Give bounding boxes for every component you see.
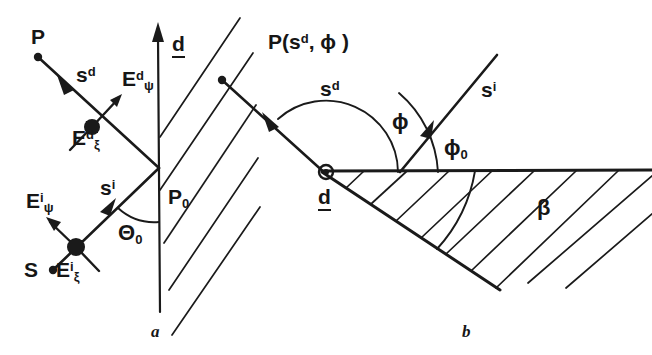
panel-a-label-angle-theta: Θ0 <box>118 222 142 244</box>
panel-a-point-p-dot <box>34 53 42 61</box>
panel-b-beta-arc <box>437 171 475 249</box>
panel-b-label-edge-vector: d <box>318 186 331 207</box>
panel-b-label-ray-incident: si <box>481 79 496 100</box>
panel-b-wedge-top-face <box>322 170 652 171</box>
panel-b-label-ray-diffracted: sd <box>320 78 340 99</box>
panel-a-geometry <box>34 18 260 335</box>
panel-a-label-source-point: S <box>24 259 38 280</box>
figure-canvas <box>0 0 652 355</box>
panel-b-phi-arc <box>278 101 398 172</box>
panel-b-geometry <box>218 55 652 290</box>
panel-a-label-ray-diffracted: sd <box>76 64 96 85</box>
panel-a-label-field-incident-xi: Eiξ <box>56 259 79 280</box>
panel-b-label-observation-point: P(sd, ϕ ) <box>268 31 349 52</box>
panel-a-label-ray-incident: si <box>100 177 115 198</box>
panel-b-label-angle-phi0: ϕ0 <box>444 137 468 159</box>
panel-a-label-field-incident-psi: Eiψ <box>26 190 53 211</box>
panel-a-caption: a <box>151 322 160 342</box>
panel-a-label-field-diffracted-xi: Edξ <box>72 127 100 148</box>
panel-b-hatching <box>346 171 652 288</box>
panel-a-label-diffraction-point: P0 <box>168 186 189 207</box>
panel-a-label-normal-axis: d <box>172 33 185 54</box>
panel-b-diffracted-ray <box>222 80 326 174</box>
panel-a-hatching <box>160 18 260 335</box>
panel-a-label-field-diffracted-psi: Edψ <box>122 68 154 89</box>
panel-b-label-angle-beta: β <box>537 197 550 219</box>
panel-b-point-p-dot <box>218 76 226 84</box>
figure-root: P sd Edξ Edψ d si P0 Eiψ Θ0 S Eiξ a P(sd… <box>0 0 652 355</box>
panel-a-label-observation-point: P <box>31 26 45 47</box>
panel-b-label-angle-phi: ϕ <box>392 111 409 133</box>
panel-b-caption: b <box>462 322 471 342</box>
